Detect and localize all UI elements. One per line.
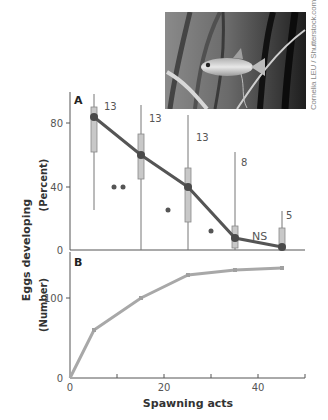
panel-a-y-tick-40: 40 bbox=[50, 182, 63, 193]
panel-b-y-tick-0: 0 bbox=[57, 373, 63, 384]
x-tick-20: 20 bbox=[158, 382, 171, 393]
panel-a-y-label: (Percent) bbox=[38, 159, 49, 212]
panel-b-markers bbox=[92, 266, 284, 332]
significance-asterisks bbox=[112, 185, 214, 234]
n-label-2: 13 bbox=[149, 113, 162, 124]
x-tick-0: 0 bbox=[67, 382, 73, 393]
panel-b-y-tick-100: 100 bbox=[44, 293, 63, 304]
x-axis-ticks bbox=[117, 374, 305, 378]
spawning-chart: Eggs developing (Percent) 80 40 0 A bbox=[0, 0, 328, 420]
panel-a-label: A bbox=[74, 94, 83, 107]
shared-y-axis-label: Eggs developing bbox=[20, 199, 33, 301]
n-label-5: 5 bbox=[286, 210, 292, 221]
panel-a: (Percent) 80 40 0 A bbox=[38, 92, 305, 256]
n-label-4: 8 bbox=[241, 157, 247, 168]
panel-b: (Number) 100 0 B 0 20 40 Spawning acts bbox=[38, 252, 305, 410]
n-label-1: 13 bbox=[104, 101, 117, 112]
x-axis-label: Spawning acts bbox=[143, 397, 234, 410]
panel-b-y-label: (Number) bbox=[38, 278, 49, 332]
panel-a-y-tick-80: 80 bbox=[50, 118, 63, 129]
significance-ns: NS bbox=[252, 230, 267, 243]
panel-b-label: B bbox=[74, 256, 82, 269]
n-label-3: 13 bbox=[196, 132, 209, 143]
panel-b-line bbox=[70, 268, 282, 378]
x-tick-40: 40 bbox=[252, 382, 265, 393]
panel-a-y-tick-0: 0 bbox=[57, 245, 63, 256]
